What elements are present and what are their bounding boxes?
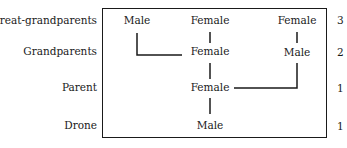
node-great-grandparent-female-2: Female	[278, 14, 317, 26]
count-parent: 1	[337, 82, 344, 94]
node-drone-male: Male	[197, 119, 224, 131]
count-grandparents: 2	[337, 46, 344, 58]
node-parent-female: Female	[191, 81, 230, 93]
node-great-grandparent-female-1: Female	[191, 14, 230, 26]
node-great-grandparent-male: Male	[124, 14, 151, 26]
node-grandparent-female: Female	[191, 45, 230, 57]
count-great-grandparents: 3	[337, 14, 344, 26]
node-grandparent-male: Male	[284, 46, 311, 58]
count-drone: 1	[337, 120, 344, 132]
